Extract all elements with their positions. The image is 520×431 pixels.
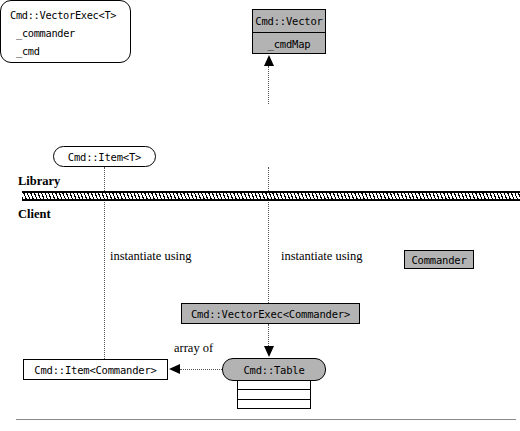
node-cmd-table-rows	[237, 379, 311, 409]
node-cmd-vector-member: _cmdMap	[253, 33, 325, 55]
band-label-library: Library	[18, 174, 60, 189]
diagram-canvas: Cmd::Vector _cmdMap Cmd::VectorExec<T> _…	[0, 0, 520, 431]
connector-vectorexec-commander-to-table	[268, 324, 269, 346]
node-cmd-item-commander[interactable]: Cmd::Item<Commander>	[23, 359, 168, 380]
node-commander[interactable]: Commander	[404, 250, 474, 269]
connector-vectorexec-to-vectorexec-commander	[268, 167, 269, 303]
band-label-client: Client	[18, 207, 51, 222]
arrowhead-left-icon	[169, 364, 180, 374]
node-cmd-vectorexec-t-member-cmd: _cmd	[10, 42, 121, 60]
node-cmd-vectorexec-t-member-commander: _commander	[10, 24, 121, 42]
connector-vectorexec-to-vector	[268, 66, 269, 104]
table-row	[238, 400, 310, 410]
annotation-array-of: array of	[174, 341, 213, 356]
annotation-instantiate-using-right: instantiate using	[281, 249, 363, 264]
connector-table-to-item-commander	[180, 369, 224, 370]
node-cmd-item-t[interactable]: Cmd::Item<T>	[53, 146, 156, 167]
bottom-rule	[16, 419, 516, 420]
node-cmd-vectorexec-commander[interactable]: Cmd::VectorExec<Commander>	[181, 303, 360, 324]
node-cmd-vector-title: Cmd::Vector	[253, 10, 325, 33]
node-cmd-vectorexec-t-title: Cmd::VectorExec<T>	[10, 6, 121, 24]
library-client-divider	[22, 191, 520, 201]
node-cmd-vectorexec-t[interactable]: Cmd::VectorExec<T> _commander _cmd	[0, 0, 131, 63]
table-row	[238, 390, 310, 400]
node-cmd-vector[interactable]: Cmd::Vector _cmdMap	[252, 9, 326, 54]
arrowhead-up-icon	[264, 55, 274, 66]
arrowhead-down-icon	[264, 346, 274, 357]
node-cmd-table[interactable]: Cmd::Table	[222, 358, 326, 381]
annotation-instantiate-using-left: instantiate using	[110, 249, 192, 264]
table-row	[238, 380, 310, 390]
